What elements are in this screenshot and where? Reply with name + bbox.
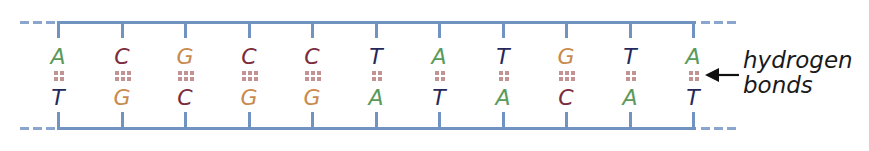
top-base: T	[361, 46, 391, 68]
hydrogen-bond-dots	[54, 71, 64, 81]
top-rung	[57, 22, 60, 38]
hydrogen-bond-dots	[626, 71, 636, 81]
bottom-rung	[375, 112, 378, 129]
bottom-base: G	[107, 87, 137, 109]
bottom-base: C	[170, 87, 200, 109]
top-base: A	[678, 46, 708, 68]
hydrogen-bond-dots	[499, 71, 509, 81]
top-left-dash	[33, 21, 42, 24]
top-base: A	[43, 46, 73, 68]
hydrogen-bond-dots	[115, 71, 131, 81]
bottom-rung	[565, 112, 568, 129]
top-base: C	[297, 46, 327, 68]
top-base: G	[170, 46, 200, 68]
top-rung	[565, 22, 568, 38]
label-line-1: hydrogen	[743, 48, 853, 73]
dna-diagram: ATCGGCCGCGTAATTAGCTAAT hydrogen bonds	[0, 0, 869, 151]
top-base: T	[488, 46, 518, 68]
bottom-base: T	[678, 87, 708, 109]
top-rung	[184, 22, 187, 38]
top-left-dash	[46, 21, 55, 24]
top-rung	[375, 22, 378, 38]
top-base: C	[107, 46, 137, 68]
hydrogen-bond-dots	[689, 71, 699, 81]
bottom-rung	[502, 112, 505, 129]
top-rung	[438, 22, 441, 38]
top-base: G	[551, 46, 581, 68]
label-line-2: bonds	[743, 73, 853, 98]
bottom-rung	[121, 112, 124, 129]
top-rung	[629, 22, 632, 38]
left-arrow-icon	[705, 68, 741, 82]
bottom-rung	[692, 112, 695, 129]
bottom-base: A	[361, 87, 391, 109]
top-rung	[692, 22, 695, 38]
bottom-rung	[629, 112, 632, 129]
hydrogen-bond-dots	[242, 71, 258, 81]
top-rung	[502, 22, 505, 38]
bottom-base: T	[43, 87, 73, 109]
bottom-left-dash	[33, 127, 42, 130]
top-right-dash	[701, 21, 710, 24]
bottom-base: G	[297, 87, 327, 109]
bottom-base: A	[488, 87, 518, 109]
bottom-rung	[57, 112, 60, 129]
bottom-rung	[438, 112, 441, 129]
bottom-rung	[184, 112, 187, 129]
bottom-right-dash	[701, 127, 710, 130]
bottom-left-dash	[20, 127, 29, 130]
bottom-rung	[248, 112, 251, 129]
top-base: A	[424, 46, 454, 68]
bottom-base: A	[615, 87, 645, 109]
bottom-right-dash	[727, 127, 736, 130]
hydrogen-bond-dots	[559, 71, 575, 81]
bottom-base: T	[424, 87, 454, 109]
top-rung	[121, 22, 124, 38]
bottom-base: C	[551, 87, 581, 109]
hydrogen-bond-dots	[372, 71, 382, 81]
top-right-dash	[727, 21, 736, 24]
bottom-right-dash	[714, 127, 723, 130]
bottom-rung	[311, 112, 314, 129]
top-right-dash	[714, 21, 723, 24]
hydrogen-bonds-label: hydrogen bonds	[743, 48, 853, 98]
top-base: T	[615, 46, 645, 68]
hydrogen-bond-dots	[305, 71, 321, 81]
top-left-dash	[20, 21, 29, 24]
hydrogen-bond-dots	[435, 71, 445, 81]
top-rung	[311, 22, 314, 38]
top-rung	[248, 22, 251, 38]
top-base: C	[234, 46, 264, 68]
bottom-left-dash	[46, 127, 55, 130]
bottom-base: G	[234, 87, 264, 109]
hydrogen-bond-dots	[178, 71, 194, 81]
